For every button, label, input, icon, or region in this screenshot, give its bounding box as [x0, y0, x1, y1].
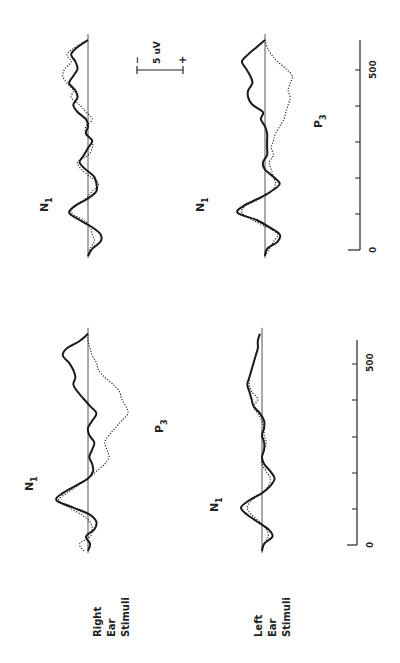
time-axis-col1: 0 500	[347, 340, 375, 548]
svg-text:Ear: Ear	[106, 618, 117, 637]
svg-text:1: 1	[201, 197, 210, 203]
annotation-n1-right-col2: N 1	[38, 197, 54, 212]
svg-text:N: N	[208, 503, 221, 512]
waveform-solid	[241, 334, 275, 551]
waveform-solid	[237, 40, 280, 256]
svg-text:Left: Left	[253, 614, 264, 637]
panel-left-ear-col2	[237, 34, 292, 258]
svg-text:Ear: Ear	[267, 618, 278, 637]
svg-text:0: 0	[365, 542, 375, 548]
scale-bar: 5 uV − +	[132, 41, 188, 74]
svg-text:N: N	[38, 203, 51, 212]
svg-text:Stimuli: Stimuli	[281, 597, 292, 637]
annotation-n1-right-col1: N 1	[23, 476, 39, 491]
annotation-p3-left-col2: P 3	[312, 114, 328, 128]
waveform-dotted	[63, 40, 99, 256]
panel-left-ear-col1	[241, 328, 275, 553]
time-axis-col2: 0 500	[348, 40, 378, 253]
svg-text:3: 3	[160, 419, 169, 425]
row-label-left-ear: Left Ear Stimuli	[253, 597, 292, 637]
svg-text:500: 500	[368, 60, 378, 79]
row-label-right-ear: Right Ear Stimuli	[92, 597, 131, 637]
svg-text:0: 0	[368, 247, 378, 253]
svg-text:+: +	[177, 56, 188, 64]
annotation-n1-left-col2: N 1	[194, 197, 210, 212]
svg-text:Right: Right	[92, 607, 103, 637]
svg-text:1: 1	[30, 476, 39, 482]
svg-text:Stimuli: Stimuli	[120, 597, 131, 637]
annotation-p3-right-col1: P 3	[153, 419, 169, 433]
panel-right-ear-col2	[63, 34, 102, 258]
panel-right-ear-col1	[56, 328, 128, 553]
svg-text:P: P	[312, 120, 325, 128]
annotation-n1-left-col1: N 1	[208, 497, 224, 512]
svg-text:3: 3	[319, 114, 328, 120]
erp-figure: Right Ear Stimuli Left Ear Stimuli N 1 P…	[0, 0, 400, 663]
svg-text:1: 1	[215, 497, 224, 503]
waveform-solid	[69, 40, 102, 256]
svg-text:N: N	[23, 482, 36, 491]
waveform-plots	[56, 34, 292, 553]
svg-text:−: −	[132, 56, 142, 64]
svg-text:500: 500	[365, 353, 375, 372]
svg-text:1: 1	[45, 197, 54, 203]
svg-text:P: P	[153, 425, 166, 433]
waveform-solid	[56, 334, 96, 551]
svg-text:5 uV: 5 uV	[152, 41, 162, 64]
svg-text:N: N	[194, 203, 207, 212]
